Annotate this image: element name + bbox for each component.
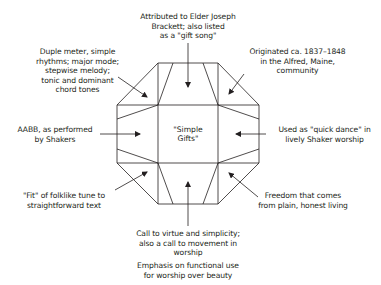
annotation-line: chord tones (30, 85, 125, 95)
annotation-bottom-left: "Fit" of folklike tune to straightforwar… (14, 191, 114, 210)
annotation-line: AABB, as performed (10, 125, 100, 135)
annotation-line: Used as "quick dance" in (268, 125, 381, 135)
annotation-line: community (240, 66, 355, 76)
annotation-line: Call to virtue and simplicity; (128, 229, 248, 239)
annotation-top-right: Originated ca. 1837–1848 in the Alfred, … (240, 47, 355, 76)
annotation-line: Duple meter, simple (30, 47, 125, 57)
annotation-line: in the Alfred, Maine, (240, 57, 355, 67)
annotation-line: for worship over beauty (128, 271, 248, 281)
annotation-bottom: Call to virtue and simplicity; also a ca… (128, 229, 248, 258)
center-title: "Simple Gifts" (158, 125, 218, 144)
annotation-line: by Shakers (10, 135, 100, 145)
annotation-top-left: Duple meter, simple rhythms; major mode;… (30, 47, 125, 95)
annotation-line: Freedom that comes (253, 191, 353, 201)
annotation-line: Emphasis on functional use (128, 261, 248, 271)
annotation-line: rhythms; major mode; (30, 57, 125, 67)
annotation-line: Brackett; also listed (128, 22, 248, 32)
annotation-line: Attributed to Elder Joseph (128, 12, 248, 22)
annotation-right: Used as "quick dance" in lively Shaker w… (268, 125, 381, 144)
annotation-line: straightforward text (14, 201, 114, 211)
annotation-line: tonic and dominant (30, 76, 125, 86)
annotation-bottom-extra: Emphasis on functional use for worship o… (128, 261, 248, 280)
annotation-line: lively Shaker worship (268, 135, 381, 145)
annotation-line: as a "gift song" (128, 31, 248, 41)
annotation-line: "Fit" of folklike tune to (14, 191, 114, 201)
annotation-line: from plain, honest living (253, 201, 353, 211)
center-line-1: "Simple (158, 125, 218, 134)
annotation-left: AABB, as performed by Shakers (10, 125, 100, 144)
annotation-bottom-right: Freedom that comes from plain, honest li… (253, 191, 353, 210)
arrow-bottom-left (115, 172, 147, 190)
annotation-line: Originated ca. 1837–1848 (240, 47, 355, 57)
annotation-line: worship (128, 248, 248, 258)
annotation-line: stepwise melody; (30, 66, 125, 76)
center-line-2: Gifts" (158, 134, 218, 143)
annotation-top: Attributed to Elder Joseph Brackett; als… (128, 12, 248, 41)
annotation-line: also a call to movement in (128, 239, 248, 249)
